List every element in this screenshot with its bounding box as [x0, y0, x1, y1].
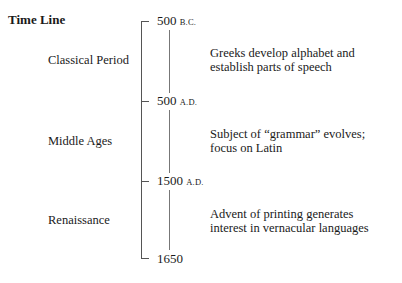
description-line: Advent of printing generates [210, 207, 369, 221]
connector-classical [169, 30, 170, 93]
period-classical: Classical Period [48, 53, 129, 68]
description-renaissance: Advent of printing generates interest in… [210, 207, 369, 235]
description-line: focus on Latin [210, 141, 365, 155]
date-marker-500bc: 500 B.C. [157, 13, 196, 29]
timeline-axis [141, 21, 142, 259]
date-marker-1650: 1650 [157, 251, 183, 267]
date-marker-500ad: 500 A.D. [157, 93, 197, 109]
connector-middle [169, 110, 170, 173]
period-renaissance: Renaissance [48, 213, 110, 228]
date-year: 500 [157, 13, 177, 28]
date-year: 1650 [157, 251, 183, 266]
description-classical: Greeks develop alphabet and establish pa… [210, 46, 355, 74]
date-year: 500 [157, 93, 177, 108]
description-line: establish parts of speech [210, 60, 355, 74]
date-era: A.D. [180, 97, 197, 107]
description-line: Subject of “grammar” evolves; [210, 127, 365, 141]
tick-1650 [141, 258, 149, 259]
diagram-title: Time Line [8, 12, 65, 28]
description-line: Greeks develop alphabet and [210, 46, 355, 60]
connector-renaissance [169, 190, 170, 250]
period-middle-ages: Middle Ages [48, 134, 112, 149]
date-era: B.C. [180, 17, 196, 27]
tick-500ad [141, 101, 149, 102]
description-line: interest in vernacular languages [210, 221, 369, 235]
description-middle-ages: Subject of “grammar” evolves; focus on L… [210, 127, 365, 155]
date-marker-1500ad: 1500 A.D. [157, 173, 204, 189]
date-era: A.D. [186, 177, 203, 187]
tick-1500ad [141, 181, 149, 182]
date-year: 1500 [157, 173, 183, 188]
tick-500bc [141, 21, 149, 22]
